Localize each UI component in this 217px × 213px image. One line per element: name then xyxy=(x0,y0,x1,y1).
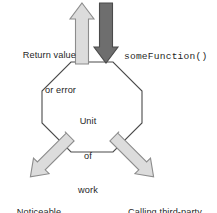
label-return-value-line1: Return value xyxy=(4,50,76,62)
label-some-function-text: someFunction() xyxy=(124,51,214,63)
unit-of-work-diagram: Return value or error someFunction() Uni… xyxy=(0,0,217,213)
label-state-change: Noticeable state change xyxy=(1,184,77,213)
label-state-change-line1: Noticeable xyxy=(1,207,77,213)
label-unit-of-work-line1: Unit xyxy=(62,116,114,128)
arrow-some-function-icon xyxy=(94,3,118,63)
label-some-function: someFunction() xyxy=(124,28,214,86)
label-third-party-line1: Calling third-party xyxy=(116,207,214,213)
label-third-party: Calling third-party dependency xyxy=(116,184,214,213)
label-unit-of-work-line2: of xyxy=(62,151,114,163)
arrow-third-party-icon xyxy=(110,132,154,177)
